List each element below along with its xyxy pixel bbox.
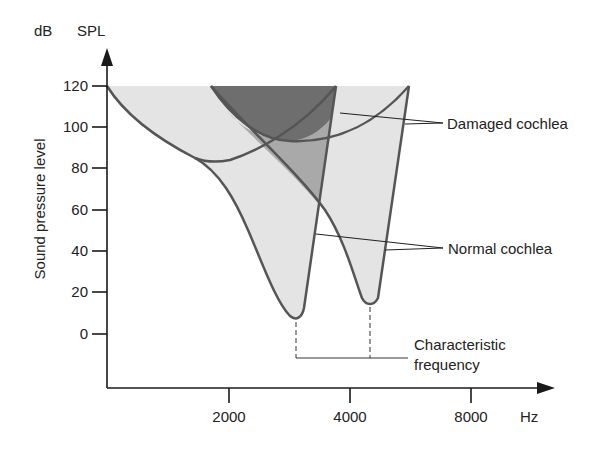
y-tick-labels: 120 100 80 60 40 20 0 (63, 77, 88, 342)
svg-text:80: 80 (71, 159, 88, 176)
svg-text:8000: 8000 (454, 408, 487, 425)
svg-text:120: 120 (63, 77, 88, 94)
svg-text:4000: 4000 (333, 408, 366, 425)
svg-text:100: 100 (63, 118, 88, 135)
svg-text:0: 0 (80, 325, 88, 342)
svg-text:40: 40 (71, 242, 88, 259)
x-tick-labels: 2000 4000 8000 (212, 408, 487, 425)
y-axis-arrow-icon (101, 48, 113, 66)
normal-cochlea-label: Normal cochlea (448, 240, 553, 257)
x-axis-arrow-icon (537, 382, 555, 394)
cochlea-tuning-diagram: 120 100 80 60 40 20 0 2000 4000 8000 Hz … (0, 0, 613, 451)
y-unit-db: dB (34, 22, 52, 39)
svg-text:20: 20 (71, 283, 88, 300)
damaged-cochlea-label: Damaged cochlea (447, 115, 569, 132)
cf-label-line2: frequency (414, 356, 480, 373)
svg-text:2000: 2000 (212, 408, 245, 425)
y-axis-label: Sound pressure level (31, 139, 48, 280)
x-unit-label: Hz (520, 408, 538, 425)
svg-text:60: 60 (71, 201, 88, 218)
characteristic-frequency-markers (296, 307, 408, 358)
cf-label-line1: Characteristic (414, 336, 506, 353)
y-unit-spl: SPL (77, 22, 105, 39)
